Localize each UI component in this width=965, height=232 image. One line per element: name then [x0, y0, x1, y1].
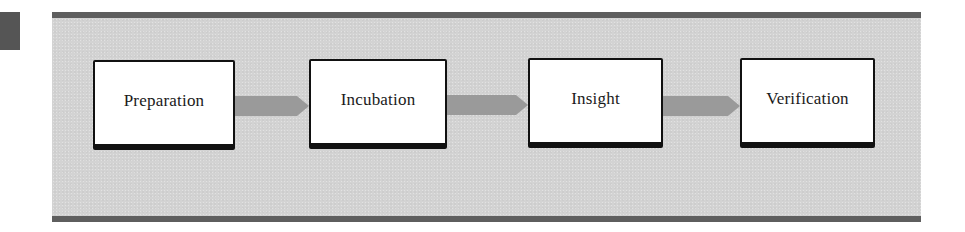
- diagram-panel: Preparation Incubation Insight Verificat…: [52, 12, 921, 222]
- panel-bottom-bar: [52, 216, 921, 222]
- section-marker: [0, 12, 20, 50]
- stage-box-incubation: Incubation: [309, 59, 447, 145]
- arrow-right-icon: [447, 95, 528, 115]
- stage-box-preparation: Preparation: [93, 60, 235, 146]
- stage-label: Insight: [571, 89, 620, 109]
- stage-box-verification: Verification: [740, 58, 875, 144]
- stage-box-insight: Insight: [528, 58, 663, 144]
- stage-label: Verification: [766, 89, 849, 109]
- stage-label: Preparation: [124, 91, 205, 111]
- stage-label: Incubation: [341, 90, 416, 110]
- arrow-right-icon: [235, 96, 309, 116]
- arrow-right-icon: [663, 96, 740, 116]
- panel-top-bar: [52, 12, 921, 18]
